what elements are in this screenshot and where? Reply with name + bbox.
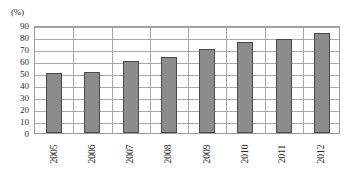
bars-group — [35, 27, 339, 133]
x-tick: 2007 — [111, 135, 149, 190]
y-tick-label: 10 — [20, 118, 29, 127]
y-tick-label: 0 — [25, 130, 30, 139]
x-axis: 20052006200720082009201020112012 — [34, 135, 340, 190]
y-tick-label: 30 — [20, 94, 29, 103]
y-tick-label: 20 — [20, 106, 29, 115]
x-tick-label: 2010 — [239, 145, 249, 164]
x-tick-label: 2007 — [125, 145, 135, 164]
y-tick-label: 90 — [20, 22, 29, 31]
x-tick-label: 2008 — [163, 145, 173, 164]
bar — [199, 49, 215, 133]
x-tick: 2011 — [264, 135, 302, 190]
y-axis-unit-label: (%) — [11, 7, 24, 17]
bar — [46, 73, 62, 133]
bar — [276, 39, 292, 133]
y-tick-label: 40 — [20, 82, 29, 91]
plot-area — [34, 26, 340, 134]
x-tick-label: 2009 — [201, 145, 211, 164]
x-tick: 2006 — [72, 135, 110, 190]
x-tick-label: 2012 — [316, 145, 326, 164]
y-axis: 0102030405060708090 — [0, 26, 33, 134]
x-tick: 2005 — [34, 135, 72, 190]
x-tick: 2009 — [187, 135, 225, 190]
y-tick-label: 70 — [20, 46, 29, 55]
bar — [237, 42, 253, 133]
y-tick-label: 60 — [20, 58, 29, 67]
x-tick: 2012 — [302, 135, 340, 190]
bar — [84, 72, 100, 133]
bar — [314, 33, 330, 133]
x-tick: 2008 — [149, 135, 187, 190]
bar — [123, 61, 139, 133]
x-tick-label: 2006 — [86, 145, 96, 164]
x-tick-label: 2011 — [278, 145, 288, 164]
bar-chart: (%) 0102030405060708090 2005200620072008… — [0, 0, 358, 190]
y-tick-label: 50 — [20, 70, 29, 79]
x-tick: 2010 — [225, 135, 263, 190]
bar — [161, 57, 177, 133]
x-tick-label: 2005 — [48, 145, 58, 164]
y-tick-label: 80 — [20, 34, 29, 43]
